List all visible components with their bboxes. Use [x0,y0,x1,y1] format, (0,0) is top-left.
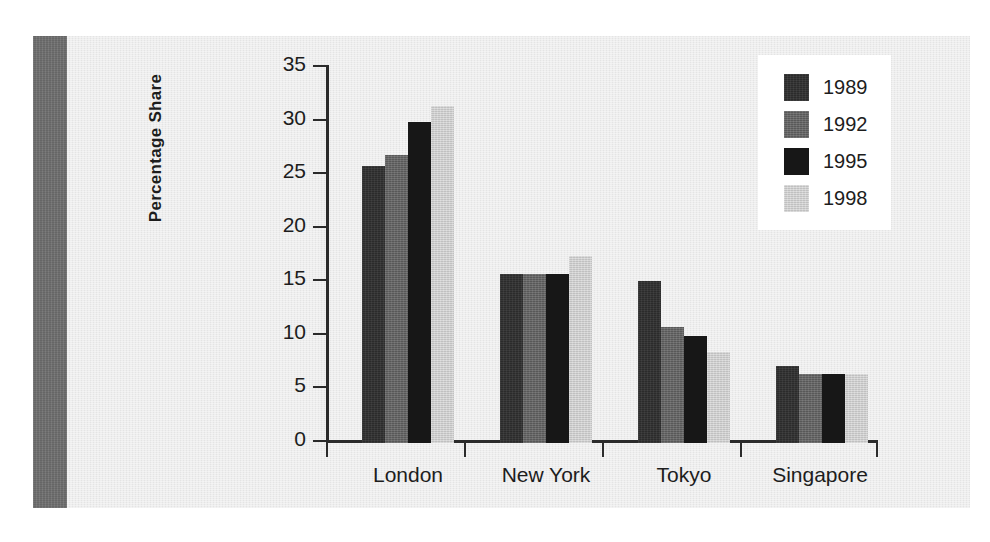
legend-item-1998: 1998 [758,180,891,217]
bar-new-york-1998 [569,256,592,444]
y-axis-tick-label: 5 [294,373,306,397]
bar-tokyo-1992 [661,327,684,443]
y-axis-tick-label: 25 [283,159,306,183]
bar-new-york-1989 [500,274,523,443]
figure-root: Percentage Share 35 30 25 20 15 [0,0,990,542]
x-axis-category-label: Singapore [750,463,890,487]
y-axis-tick-label: 15 [283,266,306,290]
x-axis-tick [326,440,328,457]
legend-item-label: 1998 [823,187,868,210]
bar-new-york-1995 [546,274,569,443]
x-axis-category-label: New York [476,463,616,487]
bar-new-york-1992 [523,274,546,443]
bar-tokyo-1998 [707,352,730,443]
y-axis-tick-label: 10 [283,320,306,344]
legend-swatch-icon [784,185,809,212]
y-axis-tick: 20 [313,226,326,228]
y-axis-tick-label: 35 [283,52,306,76]
y-axis-tick-label: 0 [294,427,306,451]
y-axis-tick: 10 [313,333,326,335]
y-axis-tick: 0 [313,440,326,442]
bar-singapore-1998 [845,374,868,443]
y-axis-tick: 5 [313,386,326,388]
bar-tokyo-1989 [638,281,661,443]
x-axis-tick [464,440,466,457]
bar-singapore-1989 [776,366,799,443]
bar-singapore-1995 [822,374,845,443]
y-axis-tick: 35 [313,65,326,67]
bar-group-newyork [500,68,592,443]
y-axis-title: Percentage Share [146,33,170,263]
y-axis-tick: 25 [313,172,326,174]
y-axis-tick: 15 [313,279,326,281]
y-axis-tick-label: 30 [283,106,306,130]
page-gutter-bar [33,36,67,508]
bar-singapore-1992 [799,374,822,443]
bar-group-tokyo [638,68,730,443]
x-axis-category-label: London [338,463,478,487]
bar-tokyo-1995 [684,336,707,443]
x-axis-tick [602,440,604,457]
bar-london-1992 [385,155,408,443]
scanned-figure-plate: Percentage Share 35 30 25 20 15 [33,36,970,508]
legend-item-1989: 1989 [758,69,891,106]
bar-london-1995 [408,122,431,443]
legend-item-label: 1992 [823,113,868,136]
legend-swatch-icon [784,111,809,138]
y-axis-tick: 30 [313,119,326,121]
bar-london-1989 [362,166,385,444]
bar-london-1998 [431,106,454,444]
bar-chart: Percentage Share 35 30 25 20 15 [67,36,970,508]
y-axis-line [326,65,329,441]
bar-group-london [362,68,454,443]
y-axis-tick-label: 20 [283,213,306,237]
x-axis-tick [740,440,742,457]
legend-item-label: 1995 [823,150,868,173]
legend-item-label: 1989 [823,76,868,99]
legend-item-1992: 1992 [758,106,891,143]
x-axis-category-label: Tokyo [614,463,754,487]
legend-swatch-icon [784,74,809,101]
legend-swatch-icon [784,148,809,175]
x-axis-tick [876,440,878,457]
chart-legend: 1989 1992 1995 1998 [758,55,891,230]
legend-item-1995: 1995 [758,143,891,180]
